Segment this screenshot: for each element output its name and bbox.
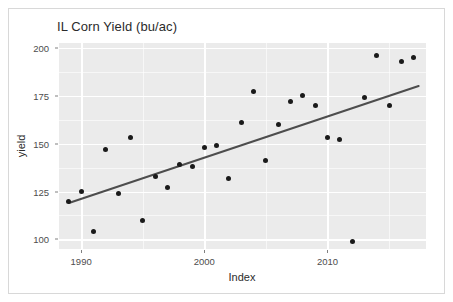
y-tick-mark — [55, 143, 58, 144]
data-point — [239, 120, 244, 125]
x-tick-mark — [81, 250, 82, 253]
y-tick-label: 150 — [33, 138, 49, 149]
chart-title: IL Corn Yield (bu/ac) — [57, 19, 177, 34]
x-axis-label: Index — [229, 271, 256, 283]
y-tick-label: 125 — [33, 186, 49, 197]
x-tick-label: 2000 — [194, 256, 215, 267]
y-tick-mark — [55, 47, 58, 48]
data-point — [399, 59, 404, 64]
x-tick-mark — [327, 250, 328, 253]
y-tick-label: 175 — [33, 90, 49, 101]
y-axis-label: yield — [15, 135, 27, 158]
y-tick-mark — [55, 191, 58, 192]
x-tick-label: 1990 — [71, 256, 92, 267]
y-tick-mark — [55, 95, 58, 96]
y-tick-label: 200 — [33, 42, 49, 53]
data-point — [202, 145, 207, 150]
data-point — [350, 239, 355, 244]
x-tick-label: 2010 — [317, 256, 338, 267]
data-point — [313, 103, 318, 108]
data-point — [66, 199, 71, 204]
data-point — [79, 189, 84, 194]
data-point — [116, 191, 121, 196]
trend-line — [59, 43, 426, 249]
data-point — [140, 218, 145, 223]
y-tick-mark — [55, 239, 58, 240]
data-point — [276, 122, 281, 127]
y-tick-label: 100 — [33, 234, 49, 245]
x-tick-mark — [204, 250, 205, 253]
data-point — [288, 99, 293, 104]
plot-panel — [59, 43, 426, 249]
data-point — [153, 174, 158, 179]
data-point — [387, 103, 392, 108]
chart-figure: IL Corn Yield (bu/ac) 100125150175200 19… — [8, 8, 445, 294]
data-point — [190, 164, 195, 169]
